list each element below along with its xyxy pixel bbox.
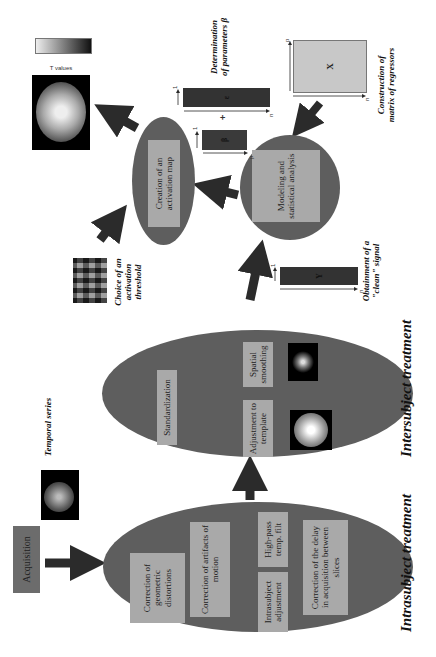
adjustment-to-template-box: Adjustment to template xyxy=(243,400,273,457)
clean-signal-caption: Obtainment of a "clean" signal xyxy=(362,240,382,302)
t-values-colorbar xyxy=(35,38,92,54)
epsilon-dim-rows: n xyxy=(268,114,274,117)
parameters-caption: Determination of parameters β xyxy=(210,16,230,78)
activation-map-box: Creation of an activation map xyxy=(148,140,180,227)
threshold-caption: Choice of an activation threshold xyxy=(114,257,144,307)
motion-correction-box: Correction of artifacts of motion xyxy=(190,522,230,617)
intrasubject-caption: Intrasubject treatment xyxy=(398,494,415,632)
activation-brain-image xyxy=(32,75,90,150)
x-dim-cols: p xyxy=(284,39,290,42)
acquisition-box: Acquisition xyxy=(13,526,40,593)
intrasubject-adjustment-box: Intrasubject adjustment xyxy=(258,572,288,632)
beta-dim-rows: p xyxy=(248,156,254,159)
intersubject-caption: Intersubject treatment xyxy=(398,320,415,457)
threshold-grid-image xyxy=(73,258,107,303)
epsilon-dim-cols: 1 xyxy=(172,86,178,89)
highpass-filter-box: High-pass temp. filt xyxy=(258,512,288,567)
modeling-box: Modeling and statistical analysis xyxy=(252,150,320,222)
slice-timing-box: Correction of the delay in acquisition b… xyxy=(303,520,348,615)
plus-sign: + xyxy=(218,115,228,120)
epsilon-vector: ε xyxy=(183,88,270,107)
regressors-caption: Construction of matrix of regressors xyxy=(377,47,397,123)
temporal-series-caption: Temporal series xyxy=(44,397,54,457)
smoothing-kernel-image xyxy=(288,343,318,381)
temporal-series-image xyxy=(41,470,79,520)
arrow-modeling-to-activation xyxy=(210,188,238,195)
x-matrix: X xyxy=(293,40,367,93)
template-brain-image xyxy=(290,410,332,450)
x-dim-rows: n xyxy=(364,98,370,101)
beta-dim-cols: 1 xyxy=(192,127,198,130)
geometric-distortion-box: Correction of geometric distortions xyxy=(130,553,185,623)
beta-vector: β xyxy=(202,130,247,150)
y-dim-cols: 1 xyxy=(270,264,276,267)
standardization-box: Standardization xyxy=(157,370,177,445)
arrow-activation-to-brain xyxy=(110,113,137,128)
y-vector: Y xyxy=(280,267,358,285)
acquisition-label: Acquisition xyxy=(21,536,33,583)
arrow-intersubject-to-modeling xyxy=(250,257,259,300)
diagram-canvas: Acquisition Temporal series Correction o… xyxy=(0,0,436,657)
colorbar-label: T values xyxy=(50,65,73,71)
arrow-threshold-to-activation xyxy=(100,219,116,240)
spatial-smoothing-box: Spatial smoothing xyxy=(243,342,273,387)
arrow-regressors-to-modeling xyxy=(302,103,320,125)
